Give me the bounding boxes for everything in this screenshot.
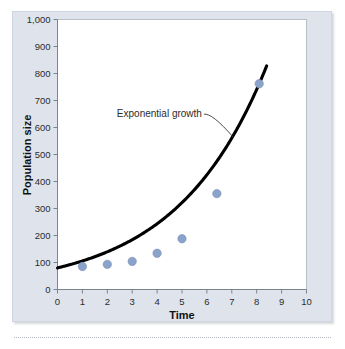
x-tick-label: 7 [229,296,234,307]
x-tick-label: 4 [154,296,159,307]
exponential-growth-curve [58,66,267,268]
x-tick-label: 6 [204,296,209,307]
y-axis-ticks [54,20,58,290]
y-tick-label: 100 [35,257,51,268]
data-point-marker [78,262,86,270]
y-axis-title: Population size [21,115,33,196]
x-tick-label: 3 [130,296,135,307]
y-tick-label: 300 [35,203,51,214]
data-point-marker [255,80,263,88]
y-tick-label: 1,000 [27,14,51,25]
figure-root: 01002003004005006007008009001,000 012345… [0,0,345,349]
x-axis-title: Time [169,309,194,321]
y-tick-label: 800 [35,68,51,79]
data-point-marker [153,249,161,257]
x-axis-tick-labels: 012345678910 [55,296,312,307]
x-tick-label: 10 [301,296,312,307]
y-tick-label: 0 [45,284,50,295]
x-tick-label: 1 [80,296,85,307]
y-tick-label: 700 [35,95,51,106]
figure-bottom-rule [14,337,331,338]
y-tick-label: 600 [35,122,51,133]
exponential-growth-chart: 01002003004005006007008009001,000 012345… [0,0,345,349]
annotation-exponential-growth: Exponential growth [117,108,202,119]
y-tick-label: 500 [35,149,51,160]
annotation-leader-line [204,114,233,137]
x-tick-label: 0 [55,296,60,307]
x-tick-label: 5 [179,296,184,307]
data-point-marker [213,189,221,197]
data-point-marker [103,260,111,268]
x-tick-label: 2 [105,296,110,307]
data-point-marker [178,235,186,243]
y-tick-label: 900 [35,41,51,52]
x-axis-ticks [58,290,307,294]
x-tick-label: 9 [279,296,284,307]
y-tick-label: 200 [35,230,51,241]
x-tick-label: 8 [254,296,259,307]
data-point-marker [128,257,136,265]
y-tick-label: 400 [35,176,51,187]
